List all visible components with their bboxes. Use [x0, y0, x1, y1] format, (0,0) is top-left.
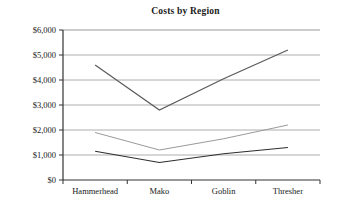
- gridlines: [63, 30, 320, 155]
- y-axis-tick-label: $5,000: [0, 51, 56, 60]
- y-axis-tick-label: $3,000: [0, 101, 56, 110]
- data-series-group: [95, 50, 288, 163]
- y-axis-tick-label: $1,000: [0, 151, 56, 160]
- data-series-line: [95, 125, 288, 150]
- y-axis-tick-label: $4,000: [0, 76, 56, 85]
- x-axis-ticks: [63, 180, 320, 184]
- y-axis-tick-label: $0: [0, 176, 56, 185]
- x-axis-tick-label: Goblin: [192, 187, 256, 196]
- x-axis-tick-label: Hammerhead: [63, 187, 127, 196]
- y-axis-tick-label: $6,000: [0, 26, 56, 35]
- x-axis-tick-label: Thresher: [256, 187, 320, 196]
- chart-container: Costs by Region $0$1,000$2,000$3,000$4,0…: [0, 0, 349, 210]
- y-axis-tick-label: $2,000: [0, 126, 56, 135]
- x-axis-tick-label: Mako: [127, 187, 191, 196]
